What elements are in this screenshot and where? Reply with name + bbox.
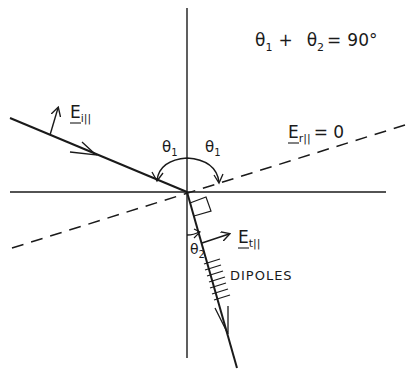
incident-field-label: Ei|| <box>70 102 91 125</box>
brewster-angle-diagram: Ei|| Er||= 0 θ1 θ1 θ2 <box>0 0 414 379</box>
angle-label-reflected: θ1 <box>205 138 221 158</box>
angle-arc-theta1 <box>157 158 219 182</box>
incident-field-vector <box>50 108 58 135</box>
transmitted-field-vector <box>202 234 229 243</box>
angle-label-incident: θ1 <box>162 138 178 158</box>
reflected-field-label: Er||= 0 <box>288 122 344 145</box>
brewster-equation: θ1+θ2=90° <box>255 30 377 54</box>
dipoles-label: DIPOLES <box>230 268 293 283</box>
incident-ray <box>10 108 187 192</box>
transmitted-field-label: Et|| <box>238 227 260 250</box>
